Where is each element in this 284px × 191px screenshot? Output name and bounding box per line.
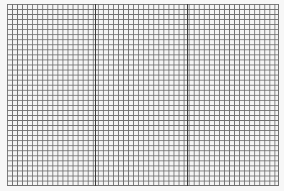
graph-paper-grid (7, 4, 279, 186)
major-vertical-line-1 (95, 4, 96, 186)
major-vertical-line-2 (187, 4, 188, 186)
graph-paper-canvas (0, 0, 284, 191)
